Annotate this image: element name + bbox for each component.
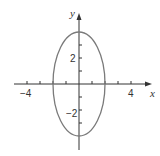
x-tick-label-4: 4 xyxy=(128,88,134,99)
ellipse-graph: −4 4 2 −2 x y xyxy=(0,0,160,156)
y-tick-label-neg2: −2 xyxy=(66,108,78,119)
x-tick-label-neg4: −4 xyxy=(20,88,32,99)
y-axis-label: y xyxy=(69,7,75,19)
y-tick-label-2: 2 xyxy=(70,53,76,64)
x-axis-arrow-icon xyxy=(145,82,152,87)
y-axis-arrow-icon xyxy=(77,13,82,20)
x-axis-label: x xyxy=(149,87,155,99)
